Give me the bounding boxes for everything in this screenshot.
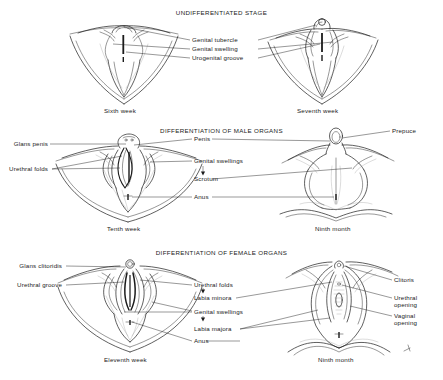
genital-development-figure: UNDIFFERENTIATED STAGE bbox=[0, 0, 443, 380]
section-female: DIFFERENTIATION OF FEMALE ORGANS bbox=[0, 240, 443, 380]
label-prepuce: Prepuce bbox=[392, 127, 416, 134]
caption-seventh-week: Seventh week bbox=[297, 107, 338, 114]
caption-eleventh-week: Eleventh week bbox=[104, 356, 147, 363]
caption-ninth-month-male: Ninth month bbox=[315, 225, 351, 232]
section-undifferentiated: UNDIFFERENTIATED STAGE bbox=[0, 0, 443, 118]
section-male: DIFFERENTIATION OF MALE ORGANS bbox=[0, 118, 443, 236]
label-urogenital-groove: Urogenital groove bbox=[192, 54, 243, 61]
leader-genital-swelling bbox=[113, 44, 190, 49]
caption-tenth-week: Tenth week bbox=[107, 225, 140, 232]
label-clitoris: Clitoris bbox=[394, 276, 414, 283]
label-vaginal-opening: Vaginal opening bbox=[394, 312, 428, 327]
caption-sixth-week: Sixth week bbox=[104, 107, 136, 114]
label-genital-swelling: Genital swelling bbox=[192, 45, 238, 52]
transform-arrows-female bbox=[0, 240, 443, 380]
leader-urogenital-groove bbox=[126, 52, 190, 58]
label-urethral-opening: Urethral opening bbox=[394, 294, 428, 309]
caption-ninth-month-female: Ninth month bbox=[318, 356, 354, 363]
label-genital-tubercle: Genital tubercle bbox=[192, 36, 238, 43]
transform-arrow-swellings-to-scrotum bbox=[0, 118, 443, 236]
